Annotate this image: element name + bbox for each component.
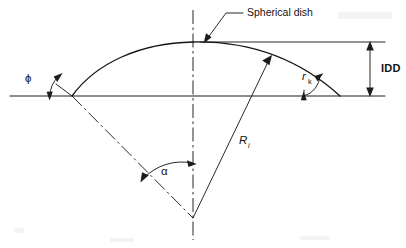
spherical-dish-profile <box>72 42 340 96</box>
figure-canvas: Spherical dish IDD ϕ α R i r k <box>0 0 406 248</box>
scan-artifacts <box>14 12 392 242</box>
alpha-angle-arc <box>140 160 196 182</box>
idd-label: IDD <box>381 62 401 74</box>
knuckle-radius-symbol: r <box>302 70 307 82</box>
phi-label: ϕ <box>25 72 31 84</box>
spherical-dish-leader <box>204 13 243 44</box>
inside-radius-arrow <box>193 55 272 218</box>
spherical-dish-diagram: Spherical dish IDD ϕ α R i r k <box>0 0 406 248</box>
idd-dimension-arrow <box>366 41 374 97</box>
alpha-label: α <box>161 165 168 177</box>
spherical-dish-label: Spherical dish <box>247 6 313 18</box>
knuckle-radius-label: r k <box>302 70 312 86</box>
knuckle-radius-subscript: k <box>308 77 312 86</box>
inside-radius-subscript: i <box>248 141 250 150</box>
inside-radius-symbol: R <box>239 134 247 146</box>
left-radius-line <box>72 96 193 218</box>
inside-radius-label: R i <box>239 134 250 150</box>
